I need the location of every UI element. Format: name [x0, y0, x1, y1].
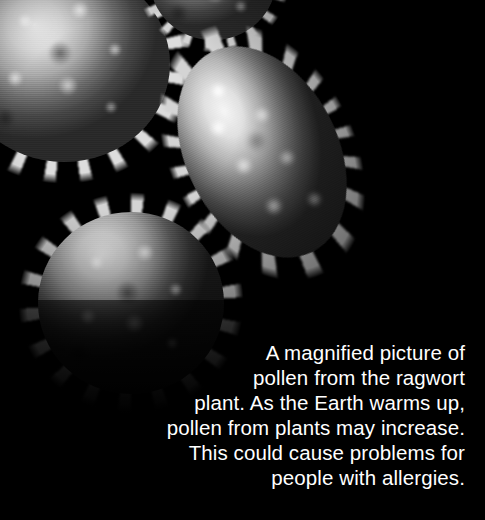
caption-line-5: This could cause problems for: [165, 440, 465, 465]
caption-line-6: people with allergies.: [165, 465, 465, 490]
figure-caption: A magnified picture of pollen from the r…: [165, 340, 465, 490]
caption-line-3: plant. As the Earth warms up,: [165, 390, 465, 415]
pollen-micrograph-figure: A magnified picture of pollen from the r…: [0, 0, 485, 520]
caption-line-2: pollen from the ragwort: [165, 365, 465, 390]
caption-line-4: pollen from plants may increase.: [165, 415, 465, 440]
caption-line-1: A magnified picture of: [165, 340, 465, 365]
pollen-grain-top-left: [0, 0, 170, 162]
